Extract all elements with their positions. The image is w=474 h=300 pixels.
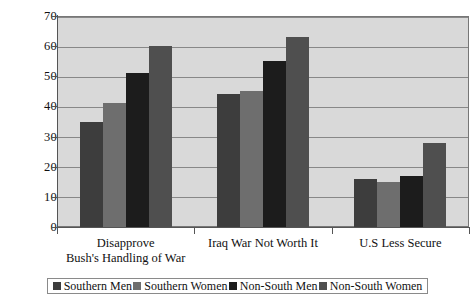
y-tick-mark-10 (51, 197, 58, 198)
gridline-40 (58, 107, 468, 108)
y-tick-mark-30 (51, 137, 58, 138)
y-axis: 010203040506070 (0, 0, 57, 260)
legend-label: Non-South Women (330, 279, 422, 294)
y-tick-label-60: 60 (9, 39, 57, 54)
x-tick-mark (332, 227, 333, 234)
y-tick-label-40: 40 (9, 99, 57, 114)
category-label-line: U.S Less Secure (332, 236, 469, 251)
legend-label: Southern Women (144, 279, 227, 294)
legend-swatch-icon (229, 282, 237, 290)
legend-swatch-icon (53, 282, 61, 290)
legend-item[interactable]: Non-South Men (229, 279, 318, 294)
gridline-50 (58, 77, 468, 78)
category-label-line: Iraq War Not Worth It (194, 236, 331, 251)
gridline-70 (58, 17, 468, 18)
category-label: U.S Less Secure (332, 236, 469, 266)
y-tick-label-20: 20 (9, 159, 57, 174)
y-tick-label-30: 30 (9, 129, 57, 144)
legend-swatch-icon (319, 282, 327, 290)
legend-swatch-icon (133, 282, 141, 290)
chart-legend: Southern MenSouthern WomenNon-South MenN… (47, 278, 428, 294)
plot-area (57, 16, 469, 227)
y-tick-mark-20 (51, 167, 58, 168)
category-label: Iraq War Not Worth It (194, 236, 331, 266)
gridline-10 (58, 197, 468, 198)
x-tick-mark (57, 227, 58, 234)
legend-item[interactable]: Southern Women (133, 279, 227, 294)
legend-label: Non-South Men (240, 279, 318, 294)
category-labels: DisapproveBush's Handling of WarIraq War… (57, 236, 469, 266)
category-label-line: Disapprove (57, 236, 194, 251)
y-tick-label-0: 0 (9, 220, 57, 235)
legend-item[interactable]: Non-South Women (319, 279, 422, 294)
gridline-60 (58, 47, 468, 48)
x-axis-line (57, 227, 470, 228)
legend-item[interactable]: Southern Men (53, 279, 132, 294)
y-tick-label-10: 10 (9, 189, 57, 204)
y-tick-mark-60 (51, 46, 58, 47)
gridline-30 (58, 137, 468, 138)
y-tick-label-50: 50 (9, 69, 57, 84)
category-label-line: Bush's Handling of War (57, 251, 194, 266)
x-tick-mark (469, 227, 470, 234)
category-label: DisapproveBush's Handling of War (57, 236, 194, 266)
y-tick-mark-70 (51, 16, 58, 17)
legend-label: Southern Men (64, 279, 132, 294)
x-tick-mark (194, 227, 195, 234)
gridline-20 (58, 167, 468, 168)
y-tick-mark-40 (51, 106, 58, 107)
bar-chart: 010203040506070 DisapproveBush's Handlin… (0, 0, 474, 300)
y-tick-label-70: 70 (9, 9, 57, 24)
y-tick-mark-50 (51, 76, 58, 77)
